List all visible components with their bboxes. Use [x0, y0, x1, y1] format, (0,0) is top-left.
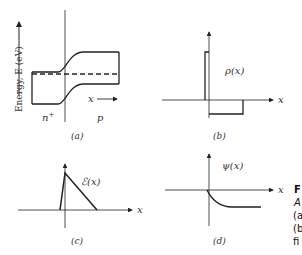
panel-b-charge-density: x ρ(x) (b)	[162, 32, 284, 141]
panel-a-band-diagram: Energy, E (eV) x n+ p (a)	[14, 10, 119, 141]
potential-curve	[207, 190, 261, 207]
rho-label: ρ(x)	[224, 65, 244, 76]
field-label: ℰ(x)	[81, 176, 101, 187]
panel-b-caption: (b)	[213, 131, 226, 141]
panel-d-potential: x ψ(x) (d)	[165, 154, 284, 246]
caption-line-2: (a	[293, 210, 302, 221]
caption-line-4: fi	[293, 236, 299, 247]
panel-c-x-label: x	[137, 204, 143, 215]
negative-charge-block	[209, 100, 243, 114]
panel-c-caption: (c)	[71, 236, 84, 246]
caption-title-fragment: F	[294, 184, 301, 195]
region-p-label: p	[97, 112, 104, 123]
panel-d-caption: (d)	[213, 236, 226, 246]
psi-label: ψ(x)	[222, 160, 243, 171]
caption-line-3: (b	[293, 223, 302, 234]
valence-band	[32, 84, 119, 104]
figure-canvas: Energy, E (eV) x n+ p (a) x ρ(x) (b)	[0, 0, 302, 255]
panel-c-electric-field: x ℰ(x) (c)	[18, 164, 143, 246]
side-caption: F A (a (b fi	[293, 184, 302, 247]
panel-d-x-label: x	[278, 184, 284, 195]
positive-charge-block	[205, 52, 209, 100]
panel-b-x-label: x	[278, 94, 284, 105]
region-n-plus-label: n+	[42, 111, 54, 123]
energy-axis-label: Energy, E (eV)	[14, 46, 24, 112]
panel-a-caption: (a)	[71, 131, 84, 141]
panel-a-x-label: x	[88, 93, 94, 104]
caption-line-1: A	[293, 197, 301, 208]
conduction-band	[32, 52, 119, 72]
